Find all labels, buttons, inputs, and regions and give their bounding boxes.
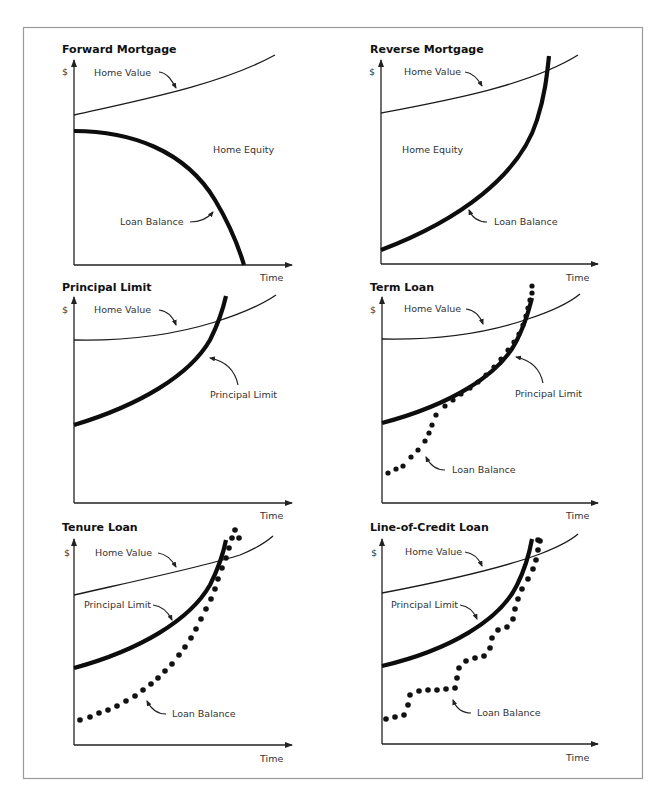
loan-balance-dot [511, 339, 516, 344]
principal-limit-curve [74, 296, 226, 425]
loan-balance-dot [443, 686, 449, 692]
loan-balance-dot [232, 527, 238, 533]
loan-balance-dot [416, 688, 422, 694]
loan-balance-dot [408, 454, 413, 459]
loan-balance-dot [236, 535, 242, 541]
panel-forward-mortgage: Forward Mortgage $ Time Home Value Home … [62, 43, 292, 283]
loan-balance-dot [525, 576, 531, 582]
home-value-pointer-icon [159, 310, 176, 325]
y-axis-label: $ [370, 304, 376, 315]
x-axis-label: Time [565, 752, 589, 763]
loan-balance-dot [383, 716, 389, 722]
loan-balance-dot [188, 635, 194, 641]
loan-balance-dot [393, 466, 398, 471]
loan-balance-label: Loan Balance [494, 216, 558, 227]
loan-balance-dot [219, 565, 225, 571]
home-value-label: Home Value [95, 547, 152, 558]
loan-balance-dot [425, 687, 431, 693]
loan-balance-dot [203, 606, 209, 612]
principal-limit-pointer-icon [153, 605, 172, 620]
loan-balance-dot [475, 379, 480, 384]
panel-title: Forward Mortgage [62, 43, 177, 56]
x-axis-label: Time [565, 510, 589, 521]
loan-balance-dot [504, 624, 510, 630]
loan-balance-dot [510, 616, 516, 622]
loan-balance-pointer-icon [426, 457, 445, 470]
loan-balance-dot [407, 692, 413, 698]
loan-balance-dot [405, 702, 411, 708]
loan-balance-dot [155, 675, 161, 681]
loan-balance-dot [463, 658, 469, 664]
panel-term-loan: Term Loan $ Time Home Value Principal Li… [370, 281, 598, 521]
loan-balance-dot [434, 687, 440, 693]
principal-limit-pointer-icon [516, 357, 543, 383]
loan-balance-dot [123, 698, 129, 704]
y-axis-label: $ [64, 547, 70, 558]
panel-reverse-mortgage: Reverse Mortgage $ Time Home Value Home … [369, 43, 598, 283]
loan-balance-dot [519, 586, 525, 592]
loan-balance-dot [456, 665, 462, 671]
home-value-pointer-icon [465, 552, 482, 566]
loan-balance-dot [489, 635, 495, 641]
loan-balance-dot [176, 652, 182, 658]
x-axis-label: Time [565, 272, 589, 283]
panel-principal-limit: Principal Limit $ Time Home Value Princi… [62, 281, 292, 521]
y-axis-label: $ [369, 66, 375, 77]
loan-balance-dot [525, 305, 530, 310]
loan-balance-dot [505, 347, 510, 352]
x-axis-label: Time [259, 510, 283, 521]
loan-balance-dot [458, 391, 463, 396]
loan-balance-dot [392, 714, 398, 720]
loan-balance-dot [140, 687, 146, 693]
home-value-pointer-icon [466, 309, 483, 324]
loan-balance-dot [481, 653, 487, 659]
loan-balance-dot [483, 372, 488, 377]
panel-title: Reverse Mortgage [370, 43, 484, 56]
loan-balance-dot [105, 707, 111, 713]
figure-frame [24, 28, 643, 779]
loan-balance-dot [132, 693, 138, 699]
principal-limit-label: Principal Limit [515, 388, 582, 399]
loan-balance-label: Loan Balance [120, 216, 184, 227]
y-axis-label: $ [62, 304, 68, 315]
loan-balance-dot [422, 438, 427, 443]
home-value-label: Home Value [405, 546, 462, 557]
home-value-pointer-icon [158, 553, 176, 567]
home-value-curve [74, 295, 276, 340]
loan-balance-dot [515, 596, 521, 602]
y-axis-label: $ [62, 66, 68, 77]
loan-balance-dot [454, 675, 460, 681]
principal-limit-curve [382, 298, 532, 423]
loan-balance-dot [452, 685, 458, 691]
principal-limit-label: Principal Limit [84, 599, 151, 610]
loan-balance-dot [162, 668, 168, 674]
loan-balance-dot [415, 447, 420, 452]
loan-balance-dots [383, 537, 543, 722]
home-value-label: Home Value [94, 67, 151, 78]
loan-balance-label: Loan Balance [172, 708, 236, 719]
loan-balance-dot [400, 463, 405, 468]
loan-balance-dot [467, 385, 472, 390]
loan-balance-dot [487, 645, 493, 651]
x-axis-label: Time [259, 753, 283, 764]
loan-balance-dot [208, 596, 214, 602]
panel-line-of-credit-loan: Line-of-Credit Loan $ Time Home Value Pr… [370, 521, 598, 763]
home-equity-label: Home Equity [402, 144, 463, 155]
principal-limit-pointer-icon [210, 358, 238, 385]
home-value-curve [74, 536, 273, 595]
loan-balance-dot [529, 283, 534, 288]
loan-balance-dot [512, 606, 518, 612]
loan-balance-dot [182, 644, 188, 650]
loan-balance-dot [212, 586, 218, 592]
loan-balance-dot [193, 626, 199, 632]
loan-balance-dot [385, 470, 390, 475]
loan-balance-dot [148, 681, 154, 687]
loan-balance-dot [535, 537, 541, 543]
loan-balance-dot [433, 412, 438, 417]
loan-balance-dot [450, 397, 455, 402]
loan-balance-dot [229, 535, 235, 541]
principal-limit-label: Principal Limit [391, 599, 458, 610]
loan-balance-dot [198, 616, 204, 622]
home-value-pointer-icon [465, 72, 482, 86]
home-equity-label: Home Equity [213, 144, 274, 155]
